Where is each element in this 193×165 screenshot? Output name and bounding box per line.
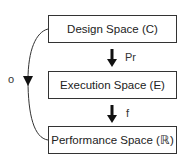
design-space-box: Design Space (C) [48,15,177,43]
arrow-label-o: o [8,73,14,85]
arrow-o [23,29,48,140]
arrow-label-f: f [126,107,129,119]
arrow-label-pr: Pr [125,51,136,63]
arrow-f [107,105,117,123]
arrow-pr [107,49,117,67]
execution-space-box: Execution Space (E) [48,71,177,99]
performance-space-box: Performance Space (ℝ) [48,126,177,154]
